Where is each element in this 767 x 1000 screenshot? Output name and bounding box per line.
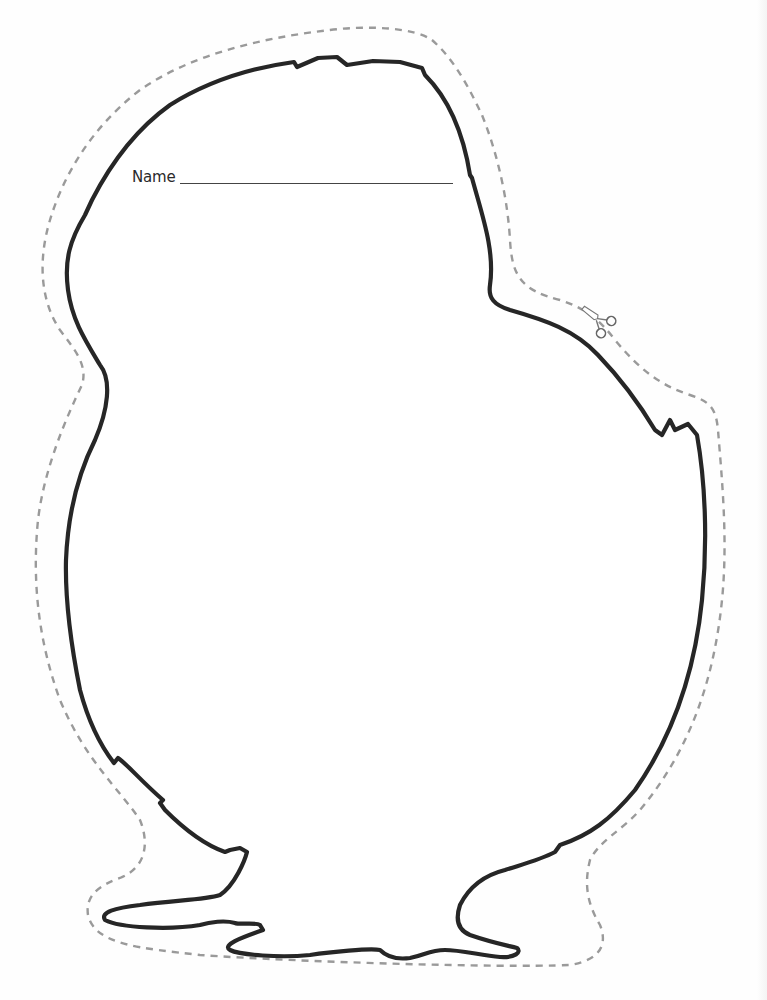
name-field-row: Name xyxy=(132,168,453,186)
chick-outline xyxy=(66,57,705,958)
name-label: Name xyxy=(132,168,175,186)
name-input[interactable] xyxy=(180,183,453,184)
chick-artwork xyxy=(0,0,767,1000)
worksheet-page: Name xyxy=(0,0,767,1000)
